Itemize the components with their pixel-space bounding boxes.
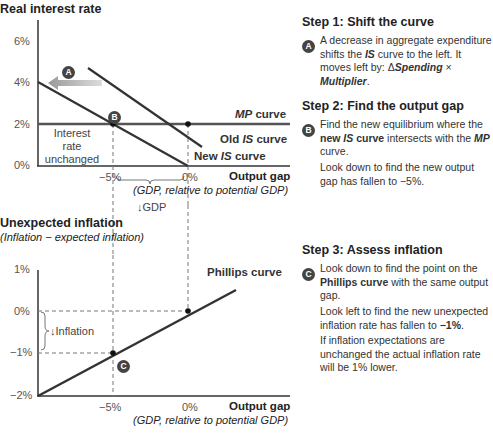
bottom-x-axis-sublabel: (GDP, relative to potential GDP) (133, 414, 288, 426)
shift-left-arrow (48, 76, 102, 90)
badge-a: A (62, 61, 75, 79)
bottom-x-axis-label: Output gap (229, 400, 290, 412)
gdp-brace (116, 176, 184, 184)
top-x-axis-sublabel: (GDP, relative to potential GDP) (133, 184, 288, 196)
top-y-axis-label: Real interest rate (0, 2, 101, 16)
ytick-zero-inflation: 0% (14, 305, 30, 317)
badge-c: C (117, 355, 130, 373)
old-equilibrium-dot (185, 121, 191, 127)
step3-badge: C (302, 263, 315, 281)
step2-badge: B (302, 119, 315, 137)
xtick-minus5-bottom: −5% (99, 401, 121, 413)
step1-title: Step 1: Shift the curve (302, 15, 434, 29)
step1-text: A decrease in aggregate expenditure shif… (320, 34, 492, 88)
inflation-drop-label: ↓Inflation (50, 325, 94, 337)
interest-rate-unchanged-note: Interest rate unchanged (41, 127, 103, 166)
ytick-1: 1% (14, 263, 30, 275)
xtick-zero-bottom: 0% (182, 401, 198, 413)
step1-badge: A (302, 35, 315, 53)
phillips-curve-label: Phillips curve (207, 266, 282, 278)
step2-text2: Look down to find the new output gap has… (320, 161, 492, 188)
step3-title: Step 3: Assess inflation (302, 243, 443, 257)
step3-text2: Look left to find the new unexpected inf… (320, 305, 492, 332)
phillips-zero-dot (185, 308, 191, 314)
bottom-y-axis-label: Unexpected inflation (0, 216, 123, 230)
inflation-brace (41, 312, 49, 350)
ytick-6: 6% (14, 35, 30, 47)
ytick-2: 2% (14, 118, 30, 130)
ytick-minus2: −2% (10, 389, 32, 401)
step3-text3: If inflation expectations are unchanged … (320, 334, 492, 375)
ytick-minus1: −1% (10, 346, 32, 358)
bottom-y-axis-sublabel: (Inflation − expected inflation) (0, 231, 144, 243)
step2-text: Find the new equilibrium where the new I… (320, 118, 492, 159)
phillips-curve-line (38, 290, 236, 396)
point-c-dot (110, 350, 116, 356)
old-is-curve-line (88, 68, 202, 147)
step2-title: Step 2: Find the output gap (302, 99, 464, 113)
step3-text: Look down to find the point on the Phill… (320, 262, 492, 303)
new-is-curve-label: New IS curve (194, 150, 266, 162)
ytick-4: 4% (14, 76, 30, 88)
xtick-minus5-top: −5% (99, 171, 121, 183)
ytick-0: 0% (14, 159, 30, 171)
xtick-zero-top: 0% (182, 171, 198, 183)
mp-curve-label: MP curve (235, 108, 286, 120)
gdp-drop-label: ↓GDP (137, 201, 166, 213)
top-x-axis-label: Output gap (229, 170, 290, 182)
old-is-curve-label: Old IS curve (220, 133, 287, 145)
badge-b: B (108, 106, 121, 124)
